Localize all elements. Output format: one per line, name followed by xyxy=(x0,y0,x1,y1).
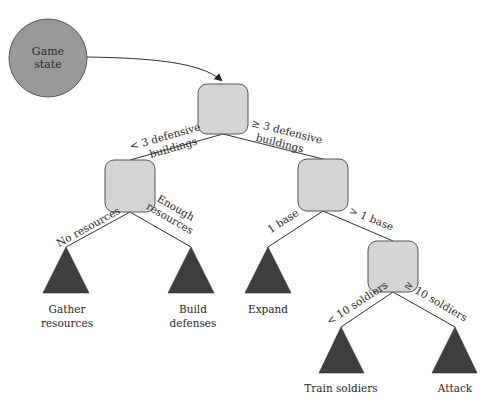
edge-label-root-right: ≥ 3 defensive buildings xyxy=(247,116,324,158)
leaf-train-triangle xyxy=(319,327,364,373)
start-arrow xyxy=(87,57,221,80)
leaf-label-build-line1: Build xyxy=(179,303,207,315)
behavior-tree-diagram: Game state < 3 defensive buildings ≥ 3 d… xyxy=(0,0,494,409)
edge-label-root-left: < 3 defensive buildings xyxy=(128,120,205,164)
edge-label-right-right: > 1 base xyxy=(348,204,396,233)
leaf-label-attack: Attack xyxy=(437,382,473,394)
leaf-build-triangle xyxy=(168,247,214,293)
svg-text:> 1 base: > 1 base xyxy=(348,204,396,233)
leaf-label-gather-line2: resources xyxy=(41,317,93,329)
start-node: Game state xyxy=(9,19,87,97)
edge-label-left-left: No resources xyxy=(54,204,122,249)
leaf-label-expand: Expand xyxy=(248,303,288,315)
svg-text:< 10 soldiers: < 10 soldiers xyxy=(324,278,390,327)
svg-text:1 base: 1 base xyxy=(265,206,301,235)
start-label-line1: Game xyxy=(32,45,64,58)
leaf-label-train: Train soldiers xyxy=(304,382,378,394)
start-label-line2: state xyxy=(34,58,62,71)
leaf-label-build-line2: defenses xyxy=(170,317,217,329)
leaf-attack-triangle xyxy=(432,327,477,373)
svg-text:No resources: No resources xyxy=(54,204,122,249)
edge-label-bottom-left: < 10 soldiers xyxy=(324,278,390,327)
leaf-expand-triangle xyxy=(245,247,291,293)
edge-label-right-left: 1 base xyxy=(265,206,301,235)
right-decision-node xyxy=(298,159,348,211)
leaf-gather-triangle xyxy=(43,247,89,293)
root-decision-node xyxy=(198,84,248,134)
leaf-label-gather-line1: Gather xyxy=(49,303,87,315)
